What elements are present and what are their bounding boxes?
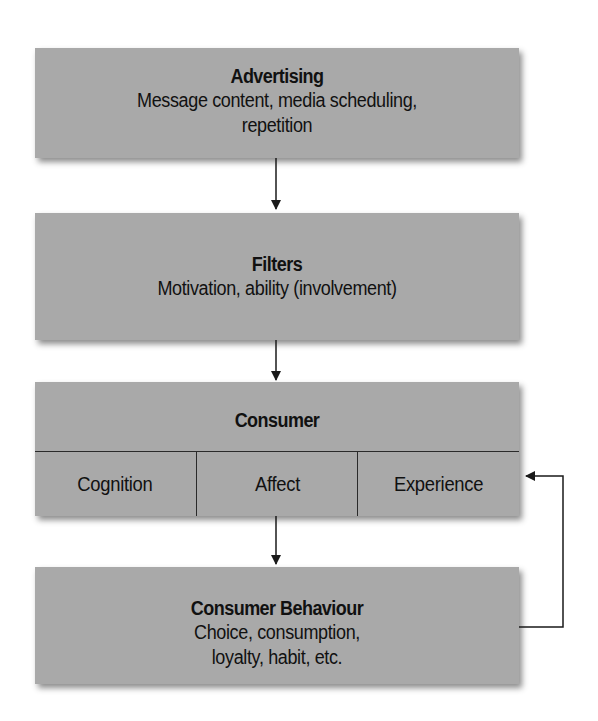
experience-cell: Experience	[357, 452, 519, 516]
consumer-title: Consumer	[59, 382, 495, 458]
filters-description: Motivation, ability (involvement)	[59, 276, 495, 301]
consumer-behaviour-description-line1: Choice, consumption,	[59, 620, 495, 645]
cognition-cell: Cognition	[35, 452, 196, 516]
consumer-components: Cognition Affect Experience	[35, 452, 519, 516]
cognition-label: Cognition	[78, 473, 153, 496]
consumer-behaviour-description-line2: loyalty, habit, etc.	[59, 645, 495, 670]
feedback-arrow-behaviour-to-experience-icon	[519, 476, 563, 627]
affect-label: Affect	[254, 473, 299, 496]
experience-label: Experience	[394, 473, 483, 496]
consumer-behaviour-box: Consumer Behaviour Choice, consumption, …	[35, 567, 519, 684]
filters-title: Filters	[59, 253, 495, 276]
affect-cell: Affect	[196, 452, 358, 516]
consumer-behaviour-title: Consumer Behaviour	[59, 597, 495, 620]
consumer-box: Consumer Cognition Affect Experience	[35, 382, 519, 516]
advertising-box: Advertising Message content, media sched…	[35, 48, 519, 158]
advertising-description-line1: Message content, media scheduling,	[59, 88, 495, 113]
advertising-title: Advertising	[59, 65, 495, 88]
advertising-description-line2: repetition	[59, 113, 495, 138]
consumer-header: Consumer	[35, 382, 519, 452]
filters-box: Filters Motivation, ability (involvement…	[35, 213, 519, 340]
